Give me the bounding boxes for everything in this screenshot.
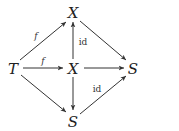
arrow-t-to-x-top [20,22,66,60]
node-x-top: X [67,4,80,22]
node-s-bottom: S [68,113,78,131]
node-t: T [8,60,19,78]
edge-label-t-x-top: f [33,31,39,41]
node-x-mid: X [67,60,80,78]
arrow-s-bottom-to-s-right [80,76,126,114]
edge-label-x-mid-x-top: id [79,37,88,47]
edge-label-t-x-mid: f [40,56,46,66]
node-s-right: S [128,60,138,78]
arrow-t-to-s-bottom [21,75,66,112]
edge-label-s-bottom-s-right: id [93,84,102,94]
commutative-diagram: f f id id X T X S S [0,0,179,131]
